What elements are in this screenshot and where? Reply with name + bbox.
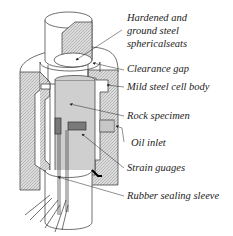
- label-seats-line1: Hardened and: [127, 12, 187, 24]
- strain-gauge-left: [55, 118, 61, 134]
- label-seats-line2: ground steel: [127, 25, 179, 37]
- triaxial-cell-diagram: Hardened and ground steel sphericalseats…: [0, 0, 233, 236]
- cell-body-left-wall: [20, 72, 40, 190]
- lower-piston: [45, 170, 92, 230]
- label-strain-gauges: Strain guages: [127, 162, 185, 174]
- label-cell-body: Mild steel cell body: [127, 81, 210, 93]
- label-rock-specimen: Rock specimen: [127, 110, 190, 122]
- label-seats-line3: sphericalseats: [127, 38, 187, 50]
- strain-gauge-right: [68, 122, 86, 130]
- label-oil-inlet: Oil inlet: [131, 137, 166, 149]
- label-sealing-sleeve: Rubber sealing sleeve: [127, 190, 219, 202]
- label-clearance-gap: Clearance gap: [127, 63, 189, 75]
